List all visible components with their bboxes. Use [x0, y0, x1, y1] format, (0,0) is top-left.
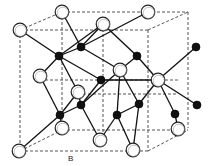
open-atom — [71, 85, 85, 99]
open-atom — [151, 73, 165, 87]
filled-atom — [192, 43, 200, 51]
open-atom — [96, 17, 110, 31]
bond — [81, 12, 148, 47]
crystal-structure-diagram: B — [0, 0, 209, 166]
cell-edge — [20, 130, 62, 151]
filled-atom — [56, 111, 64, 119]
filled-atom — [193, 101, 201, 109]
filled-atom — [77, 101, 85, 109]
open-atom — [12, 144, 26, 158]
open-atom — [93, 133, 107, 147]
open-atom — [113, 63, 127, 77]
filled-atom — [55, 52, 63, 60]
bond — [81, 70, 120, 105]
filled-atom — [135, 100, 143, 108]
open-atom — [171, 122, 185, 136]
label-b: B — [68, 154, 73, 163]
bond — [19, 115, 60, 151]
open-atom — [55, 5, 69, 19]
filled-atom — [133, 52, 141, 60]
filled-atom — [77, 43, 85, 51]
open-atom — [13, 23, 27, 37]
filled-atom — [113, 111, 121, 119]
filled-atom — [97, 76, 105, 84]
open-atom — [126, 143, 140, 157]
open-atom — [33, 69, 47, 83]
filled-atom — [171, 110, 179, 118]
open-atom — [141, 5, 155, 19]
open-atom — [55, 121, 69, 135]
bond — [158, 47, 196, 80]
